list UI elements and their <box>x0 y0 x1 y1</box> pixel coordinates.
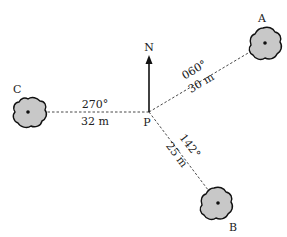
distance-c: 32 m <box>81 115 109 128</box>
point-b-label: B <box>229 221 237 234</box>
point-a-label: A <box>257 12 267 25</box>
bush-c: C <box>13 83 46 127</box>
point-b-dot <box>216 201 220 205</box>
origin-label: P <box>143 116 151 129</box>
point-c-label: C <box>13 83 21 96</box>
bush-a: A <box>249 12 281 59</box>
north-arrow: N <box>144 41 154 112</box>
point-a-dot <box>263 41 267 45</box>
bearing-diagram: N C A B P 270° 32 m 060° 30 m 142° 25 m <box>0 0 287 237</box>
bearing-c: 270° <box>82 98 109 111</box>
bush-b: B <box>200 187 237 234</box>
north-label: N <box>144 41 154 54</box>
point-c-dot <box>26 110 30 114</box>
arrowhead-icon <box>146 55 153 64</box>
